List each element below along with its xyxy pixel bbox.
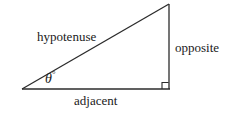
theta-angle-label: θ° xyxy=(45,70,56,86)
right-angle-marker-icon xyxy=(162,83,169,90)
theta-symbol: θ xyxy=(45,71,52,86)
opposite-label: opposite xyxy=(175,41,219,54)
right-triangle-figure: hypotenuse opposite adjacent θ° xyxy=(0,0,225,118)
adjacent-label: adjacent xyxy=(74,94,117,107)
degree-symbol: ° xyxy=(52,69,56,79)
hypotenuse-label: hypotenuse xyxy=(37,30,96,43)
